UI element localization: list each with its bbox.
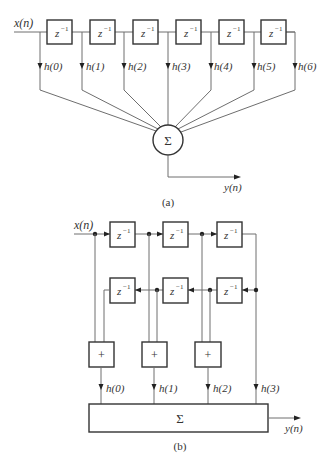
- sum-symbol-a: Σ: [164, 133, 172, 148]
- tap-label-a-4: h(4): [214, 60, 233, 73]
- svg-text:−1: −1: [176, 283, 184, 291]
- svg-text:−1: −1: [123, 227, 131, 235]
- fir-structure-diagram: x(n) z−1 z−1 z−1 z−1 z−1 z−1: [0, 0, 329, 462]
- svg-text:−1: −1: [104, 25, 112, 33]
- svg-text:−1: −1: [190, 25, 198, 33]
- sum-symbol-b: Σ: [176, 411, 184, 426]
- delay-box-a-4: z−1: [176, 20, 201, 44]
- input-label-b: x(n): [73, 218, 93, 232]
- svg-text:−1: −1: [176, 227, 184, 235]
- tap-label-a-6: h(6): [298, 60, 317, 73]
- tap-label-a-2: h(2): [128, 60, 147, 73]
- output-line-a: [168, 155, 236, 177]
- output-label-b: y(n): [284, 422, 303, 435]
- svg-text:z: z: [169, 285, 175, 297]
- svg-text:−1: −1: [61, 25, 69, 33]
- feedback-delay-box-3: z−1: [217, 278, 242, 303]
- svg-text:z: z: [183, 27, 189, 39]
- forward-delay-box-2: z−1: [163, 222, 188, 247]
- tap-label-a-1: h(1): [86, 60, 105, 73]
- svg-text:z: z: [140, 27, 146, 39]
- svg-text:−1: −1: [147, 25, 155, 33]
- tap-label-b-3: h(3): [261, 382, 280, 395]
- tap-label-b-0: h(0): [106, 382, 125, 395]
- svg-text:z: z: [116, 229, 122, 241]
- output-arrow-a: [234, 175, 241, 180]
- tap-label-a-0: h(0): [44, 60, 63, 73]
- adder-1: +: [89, 342, 114, 367]
- output-label-a: y(n): [223, 181, 242, 194]
- summer-b: Σ: [89, 404, 268, 432]
- taps-a: [38, 32, 298, 132]
- svg-text:−1: −1: [230, 283, 238, 291]
- svg-text:−1: −1: [230, 227, 238, 235]
- delay-box-a-5: z−1: [219, 20, 244, 44]
- svg-text:z: z: [169, 229, 175, 241]
- svg-text:−1: −1: [275, 25, 283, 33]
- caption-b: (b): [174, 440, 187, 453]
- svg-text:z: z: [116, 285, 122, 297]
- delay-box-a-6: z−1: [261, 20, 286, 44]
- delay-box-a-2: z−1: [90, 20, 115, 44]
- feedback-delay-box-1: z−1: [110, 278, 135, 303]
- caption-a: (a): [162, 196, 175, 209]
- input-label-a: x(n): [13, 16, 33, 30]
- adder-2: +: [142, 342, 167, 367]
- svg-text:z: z: [268, 27, 274, 39]
- tap-label-b-2: h(2): [213, 382, 232, 395]
- forward-delay-box-1: z−1: [110, 222, 135, 247]
- svg-text:−1: −1: [233, 25, 241, 33]
- svg-text:z: z: [226, 27, 232, 39]
- svg-text:z: z: [223, 285, 229, 297]
- output-arrow-b: [294, 416, 301, 421]
- svg-text:−1: −1: [123, 283, 131, 291]
- junction-dot: [254, 288, 258, 292]
- svg-text:z: z: [97, 27, 103, 39]
- svg-text:+: +: [151, 348, 158, 362]
- tap-label-a-3: h(3): [172, 60, 191, 73]
- delay-box-a-3: z−1: [133, 20, 158, 44]
- delay-box-a-1: z−1: [47, 20, 72, 44]
- figure-b: x(n) z−1 z−1 z−1 z−1 z−1 z−1: [73, 218, 303, 453]
- figure-a: x(n) z−1 z−1 z−1 z−1 z−1 z−1: [13, 16, 317, 209]
- adder-3: +: [195, 342, 221, 367]
- svg-text:z: z: [223, 229, 229, 241]
- forward-delay-box-3: z−1: [217, 222, 242, 247]
- svg-text:z: z: [54, 27, 60, 39]
- tap-label-b-1: h(1): [159, 382, 178, 395]
- feedback-delay-box-2: z−1: [163, 278, 188, 303]
- tap-label-a-5: h(5): [257, 60, 276, 73]
- svg-text:+: +: [205, 348, 212, 362]
- summer-a: Σ: [153, 125, 183, 155]
- svg-text:+: +: [98, 348, 105, 362]
